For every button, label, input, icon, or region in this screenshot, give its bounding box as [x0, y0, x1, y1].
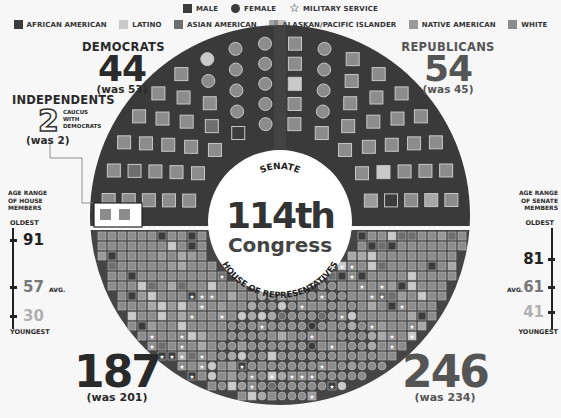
house-seat-male: [228, 282, 236, 290]
house-seat-male: [188, 242, 196, 250]
military-star-icon: ★: [179, 363, 184, 370]
house-seat-male: [148, 262, 156, 270]
house-seat-male: [108, 262, 116, 270]
house-seat-male: [168, 332, 176, 340]
house-seat-male: [328, 332, 336, 340]
house-seat-female: [328, 282, 336, 290]
house-seat-male: [418, 262, 426, 270]
house-seat-male: [378, 332, 386, 340]
house-seat-male: [218, 362, 226, 370]
congress-label: Congress: [228, 233, 332, 257]
house-seat-male: [398, 262, 406, 270]
house-seat-male: [118, 242, 126, 250]
senate-seat-female: [231, 105, 244, 118]
house-seat-male: [188, 362, 196, 370]
house-seat-female: [268, 322, 276, 330]
house-seat-male: [428, 232, 436, 240]
house-seat-male: [218, 282, 226, 290]
senate-seat-male: [288, 37, 301, 50]
house-seat-female: [278, 352, 286, 360]
house-seat-male: [388, 352, 396, 360]
house-seat-male: [348, 292, 356, 300]
military-star-icon: ★: [299, 303, 304, 310]
house-seat-female: [218, 342, 226, 350]
house-seat-male: [358, 292, 366, 300]
house-seat-male: [358, 242, 366, 250]
house-seat-male: [158, 302, 166, 310]
house-seat-male: [228, 382, 236, 390]
house-seat-female: [258, 342, 266, 350]
house-seat-male: [358, 302, 366, 310]
house-seat-male: [388, 302, 396, 310]
senate-seat-female: [317, 84, 330, 97]
house-seat-female: [258, 372, 266, 380]
house-seat-female: [228, 322, 236, 330]
house-seat-male: [398, 282, 406, 290]
house-seat-male: [388, 322, 396, 330]
house-seat-male: [378, 242, 386, 250]
house-seat-female: [348, 362, 356, 370]
house-seat-male: [168, 312, 176, 320]
senate-seat-male: [162, 194, 175, 207]
house-seat-male: [168, 302, 176, 310]
house-seat-male: [398, 292, 406, 300]
house-seat-male: [178, 292, 186, 300]
house-seat-male: [438, 252, 446, 260]
house-seat-male: [408, 242, 416, 250]
senate-avg-age: AVG.61: [507, 278, 544, 296]
house-seat-male: [358, 312, 366, 320]
house-seat-female: [278, 382, 286, 390]
house-seat-male: [148, 232, 156, 240]
senate-seat-male: [362, 140, 375, 153]
house-seat-male: [108, 232, 116, 240]
house-seat-female: [338, 382, 346, 390]
house-seat-male: [208, 282, 216, 290]
house-seat-female: [318, 382, 326, 390]
house-seat-male: [168, 262, 176, 270]
house-seat-male: [178, 322, 186, 330]
tick-oldest: [548, 258, 555, 261]
house-seat-male: [208, 312, 216, 320]
house-seat-male: [378, 312, 386, 320]
house-seat-male: [418, 272, 426, 280]
house-seat-female: [348, 352, 356, 360]
house-seat-male: [138, 272, 146, 280]
house-seat-male: [398, 322, 406, 330]
house-seat-male: [378, 272, 386, 280]
senate-seat-male: [339, 143, 352, 156]
senate-seat-male: [405, 194, 418, 207]
house-seat-male: [188, 332, 196, 340]
senate-seat-female: [259, 57, 272, 70]
senate-seat-male: [288, 97, 301, 110]
house-seat-male: [438, 292, 446, 300]
house-seat-female: [288, 352, 296, 360]
house-seat-male: [138, 282, 146, 290]
military-star-icon: ★: [349, 263, 354, 270]
tick-youngest: [548, 311, 555, 314]
house-seat-female: [278, 342, 286, 350]
house-seat-male: [108, 282, 116, 290]
military-star-icon: ★: [339, 313, 344, 320]
house-seat-female: [278, 362, 286, 370]
house-seat-male: [188, 302, 196, 310]
house-seat-male: [238, 302, 246, 310]
house-seat-male: [408, 302, 416, 310]
house-seat-male: [178, 312, 186, 320]
senate-seat-male: [203, 97, 216, 110]
senate-seat-male: [370, 91, 383, 104]
house-seat-male: [368, 302, 376, 310]
senate-seat-male: [398, 165, 411, 178]
house-seat-male: [168, 242, 176, 250]
senate-seat-male: [385, 138, 398, 151]
house-seat-male: [338, 282, 346, 290]
house-seat-male: [128, 232, 136, 240]
house-seat-female: [248, 362, 256, 370]
house-seat-male: [408, 292, 416, 300]
house-seat-male: [418, 242, 426, 250]
military-star-icon: ★: [209, 293, 214, 300]
senate-seat-male: [372, 68, 385, 81]
house-seat-male: [188, 282, 196, 290]
house-seat-male: [218, 322, 226, 330]
senate-seat-male: [355, 167, 368, 180]
house-seat-male: [418, 252, 426, 260]
